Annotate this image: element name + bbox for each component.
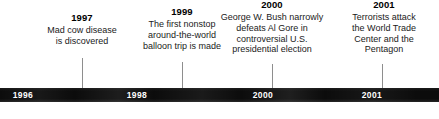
timeline-event-2000: 2000 George W. Bush narrowly defeats Al …	[209, 0, 335, 55]
event-description: Terrorists attack the World Trade Center…	[334, 12, 434, 56]
leader-tick-2000	[272, 64, 273, 88]
axis-year-2001: 2001	[352, 89, 392, 102]
event-description: George W. Bush narrowly defeats Al Gore …	[209, 12, 335, 56]
leader-tick-1997	[82, 58, 83, 88]
leader-tick-1999	[182, 62, 183, 88]
axis-year-2000: 2000	[243, 89, 283, 102]
event-year-label: 2000	[209, 0, 335, 11]
axis-year-1996: 1996	[3, 89, 43, 102]
leader-tick-2001	[382, 64, 383, 88]
event-year-label: 2001	[334, 0, 434, 11]
timeline-figure: 1997 Mad cow disease is discovered 1999 …	[0, 0, 439, 119]
timeline-event-2001: 2001 Terrorists attack the World Trade C…	[334, 0, 434, 55]
axis-year-1998: 1998	[117, 89, 157, 102]
